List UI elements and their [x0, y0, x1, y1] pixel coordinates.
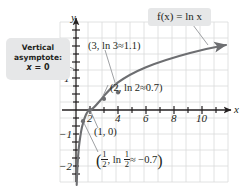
point-label-3-value: 1.1) — [124, 40, 141, 51]
x-tick-label-8: 8 — [171, 113, 177, 124]
ln-function-graph-figure: f(x) = ln x x y 2 4 6 8 10 2 1 −1 −2 (3,… — [0, 0, 247, 195]
y-axis-label: y — [71, 12, 76, 23]
point-label-2-value: 0.7) — [146, 82, 163, 93]
callout-line-1: Vertical — [12, 43, 64, 53]
paren-close: ) — [157, 155, 162, 168]
point-label-half: (12, ln 12≈ −0.7) — [96, 150, 163, 168]
leader-func-label — [193, 25, 208, 45]
point-label-2: (2, ln 2≈0.7) — [110, 83, 162, 94]
callout-line-2: asymptote: — [12, 53, 64, 63]
x-tick-label-2: 2 — [87, 113, 93, 124]
x-tick-label-4: 4 — [115, 113, 121, 124]
point-label-2-text: (2, ln 2 — [110, 82, 140, 93]
point-label-3: (3, ln 3≈1.1) — [88, 41, 140, 52]
y-tick-label-neg1: −1 — [59, 129, 72, 140]
callout-line-3: x = 0 — [12, 63, 64, 74]
callout-equation: = 0 — [32, 63, 50, 72]
point-label-half-approx: ≈ −0.7 — [130, 154, 157, 165]
function-label: f(x) = ln x — [148, 8, 211, 26]
y-tick-label-neg2: −2 — [59, 161, 72, 172]
point-label-3-text: (3, ln 3 — [88, 40, 118, 51]
point-label-half-comma: , ln — [108, 154, 124, 165]
vertical-asymptote-callout: Vertical asymptote: x = 0 — [6, 38, 70, 80]
point-label-1: (1, 0) — [94, 127, 117, 138]
x-axis-label: x — [234, 104, 239, 115]
x-tick-label-6: 6 — [143, 113, 149, 124]
x-tick-label-10: 10 — [196, 113, 207, 124]
